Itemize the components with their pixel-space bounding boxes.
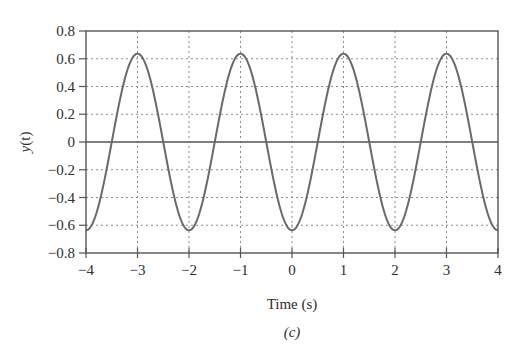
x-tick-label: −1: [233, 262, 249, 278]
x-tick-label: 1: [340, 262, 348, 278]
x-tick-label: −4: [78, 262, 94, 278]
y-tick-label: −0.2: [48, 162, 75, 178]
y-tick-label: 0.4: [56, 79, 75, 95]
x-tick-label: −3: [130, 262, 146, 278]
x-tick-label: 4: [494, 262, 502, 278]
x-tick-label: 2: [391, 262, 399, 278]
x-tick-label: −2: [181, 262, 197, 278]
y-tick-label: 0.8: [56, 23, 75, 39]
y-tick-label: 0.6: [56, 51, 75, 67]
x-axis-tick-labels: −4−3−2−101234: [78, 262, 502, 278]
y-tick-label: −0.8: [48, 245, 75, 261]
y-axis-label: y(t): [17, 132, 34, 155]
x-tick-label: 3: [443, 262, 451, 278]
y-tick-label: 0: [68, 134, 76, 150]
figure-caption: (c): [284, 324, 301, 341]
y-tick-label: 0.2: [56, 106, 75, 122]
x-axis-label: Time (s): [267, 296, 318, 313]
y-axis-tick-labels: 0.80.60.40.20−0.2−0.4−0.6−0.8: [48, 23, 76, 261]
x-tick-label: 0: [288, 262, 296, 278]
chart-figure: 0.80.60.40.20−0.2−0.4−0.6−0.8 −4−3−2−101…: [0, 0, 506, 349]
y-tick-label: −0.6: [48, 217, 76, 233]
y-tick-label: −0.4: [48, 190, 76, 206]
y-axis-label-arg: (t): [17, 132, 34, 146]
axis-ticks: [79, 31, 498, 258]
y-axis-label-var: y: [17, 145, 33, 154]
